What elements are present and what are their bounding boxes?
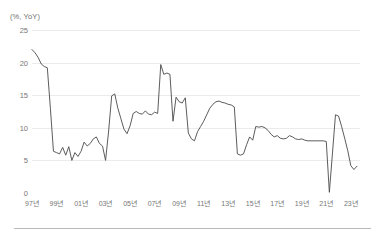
y-axis-title: (%, YoY) bbox=[10, 12, 40, 21]
x-tick-label: 07년 bbox=[148, 198, 162, 208]
x-tick-label: 99년 bbox=[50, 198, 64, 208]
x-tick-label: 23년 bbox=[344, 198, 358, 208]
line-series-svg bbox=[32, 30, 360, 193]
y-axis-tick-labels: 2520151050 bbox=[10, 30, 28, 193]
x-tick-label: 09년 bbox=[172, 198, 186, 208]
y-tick-label: 25 bbox=[20, 26, 28, 35]
x-tick-label: 13년 bbox=[221, 198, 235, 208]
x-tick-label: 15년 bbox=[246, 198, 260, 208]
x-tick-label: 97년 bbox=[25, 198, 39, 208]
x-tick-label: 05년 bbox=[123, 198, 137, 208]
x-tick-label: 19년 bbox=[295, 198, 309, 208]
x-tick-label: 01년 bbox=[74, 198, 88, 208]
x-tick-label: 03년 bbox=[99, 198, 113, 208]
bottom-divider bbox=[14, 228, 371, 229]
y-tick-label: 0 bbox=[24, 189, 28, 198]
x-tick-label: 17년 bbox=[270, 198, 284, 208]
y-tick-label: 5 bbox=[24, 156, 28, 165]
x-axis-tick-labels: 97년99년01년03년05년07년09년11년13년15년17년19년21년2… bbox=[32, 198, 360, 212]
x-tick-label: 11년 bbox=[197, 198, 210, 208]
chart-figure: (%, YoY) 2520151050 97년99년01년03년05년07년09… bbox=[0, 0, 385, 237]
y-tick-label: 15 bbox=[20, 91, 28, 100]
line-series-path bbox=[32, 50, 357, 193]
y-tick-label: 20 bbox=[20, 58, 28, 67]
plot-area bbox=[32, 30, 360, 193]
y-tick-label: 10 bbox=[20, 123, 28, 132]
x-tick-label: 21년 bbox=[319, 198, 333, 208]
